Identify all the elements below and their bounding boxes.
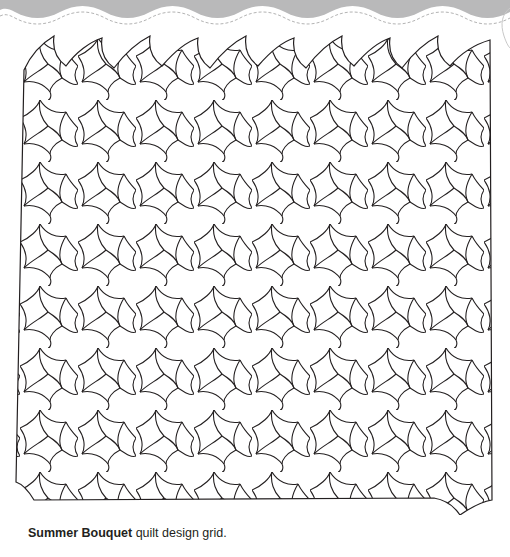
header-wave-band: [0, 0, 510, 30]
stitch-line: [0, 12, 510, 24]
tessellation-fill: [14, 30, 500, 515]
quilt-design-grid: [14, 30, 500, 515]
caption-text: quilt design grid.: [132, 526, 227, 540]
caption-title: Summer Bouquet: [28, 526, 132, 540]
wave-band-shape: [0, 0, 510, 18]
figure-caption: Summer Bouquet quilt design grid.: [28, 526, 227, 540]
